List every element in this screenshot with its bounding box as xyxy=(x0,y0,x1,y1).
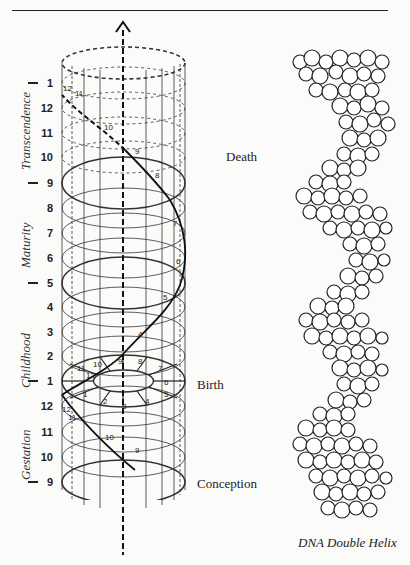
axis-tick-label: 3 xyxy=(33,326,53,338)
axis-tick-label: 6 xyxy=(33,252,53,264)
axis-major-tick-mark xyxy=(28,282,38,284)
axis-tick-label: 10 xyxy=(33,451,53,463)
axis-tick-label: 12 xyxy=(33,102,53,114)
dna-caption: DNA Double Helix xyxy=(298,535,397,551)
axis-tick-label: 11 xyxy=(33,426,53,438)
axis-tick-label: 12 xyxy=(33,400,53,412)
axis-major-tick-mark xyxy=(28,82,38,84)
axis-major-tick-mark xyxy=(28,481,38,483)
axis-tick-label: 10 xyxy=(33,151,53,163)
stage-label-gestation: Gestation xyxy=(18,429,34,480)
axis-major-tick-mark xyxy=(28,182,38,184)
axis-tick-label: 2 xyxy=(33,350,53,362)
stage-label-transcendence: Transcendence xyxy=(18,92,34,170)
axis-tick-label: 8 xyxy=(33,202,53,214)
event-label-birth: Birth xyxy=(197,377,224,393)
event-label-conception: Conception xyxy=(197,476,257,492)
axis-tick-label: 7 xyxy=(33,227,53,239)
stage-label-childhood: Childhood xyxy=(18,333,34,388)
event-label-death: Death xyxy=(226,149,257,165)
axis-tick-label: 11 xyxy=(33,127,53,139)
axis-tick-label: 4 xyxy=(33,301,53,313)
stage-label-maturity: Maturity xyxy=(18,223,34,269)
